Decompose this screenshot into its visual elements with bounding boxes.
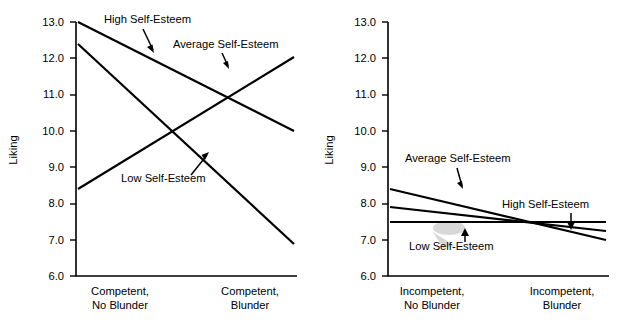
right-xcat2-line1: Incompetent,: [530, 285, 595, 297]
right-annotation-high-label: High Self-Esteem: [502, 198, 589, 210]
left-ytick-12: 12.0: [42, 52, 64, 64]
right-xcat2-line2: Blunder: [543, 299, 582, 311]
left-ytick-11: 11.0: [43, 88, 64, 100]
left-series-low-self-esteem: [78, 44, 294, 244]
right-ytick-11: 11.0: [355, 88, 376, 100]
right-ytick-9: 9.0: [360, 161, 376, 173]
left-ytick-9: 9.0: [48, 161, 64, 173]
left-axis-lines: [76, 22, 297, 276]
left-ytick-8: 8.0: [48, 197, 64, 209]
right-ytick-13: 13.0: [354, 16, 376, 28]
right-ytick-10: 10.0: [354, 125, 376, 137]
left-xcat2-line1: Competent,: [221, 285, 279, 297]
left-xcat1-line1: Competent,: [91, 285, 149, 297]
right-axis-lines: [388, 22, 609, 276]
right-xcat1-line1: Incompetent,: [400, 285, 465, 297]
right-xcat1-line2: No Blunder: [404, 299, 460, 311]
left-annotation-average-label: Average Self-Esteem: [173, 38, 279, 50]
chart-panel-competent: Liking 13.0 12.0 11.0 10.0 9.0 8.0 7.0 6…: [0, 0, 309, 326]
right-series-high-self-esteem: [390, 207, 606, 231]
chart-panel-incompetent: Liking 13.0 12.0 11.0 10.0 9.0 8.0 7.0 6…: [309, 0, 618, 326]
left-annotation-high-label: High Self-Esteem: [104, 13, 191, 25]
left-y-axis-title: Liking: [7, 135, 19, 164]
left-annotation-average-arrow: [222, 53, 229, 69]
right-annotation-average-arrow: [457, 168, 463, 189]
right-ytick-8: 8.0: [360, 197, 376, 209]
right-ytick-7: 7.0: [360, 234, 376, 246]
smudge-artifact: [433, 221, 465, 235]
right-chart-svg: Liking 13.0 12.0 11.0 10.0 9.0 8.0 7.0 6…: [309, 0, 618, 326]
left-ytick-10: 10.0: [42, 125, 64, 137]
right-annotation-low-label: Low Self-Esteem: [409, 240, 494, 252]
left-xcat1-line2: No Blunder: [92, 299, 148, 311]
left-xcat2-line2: Blunder: [231, 299, 270, 311]
two-panel-line-chart-figure: Liking 13.0 12.0 11.0 10.0 9.0 8.0 7.0 6…: [0, 0, 618, 326]
left-ytick-6: 6.0: [48, 270, 64, 282]
left-annotation-high-arrow: [143, 29, 154, 53]
right-ytick-6: 6.0: [360, 270, 376, 282]
right-annotation-average-label: Average Self-Esteem: [405, 152, 511, 164]
right-series-average-self-esteem: [390, 189, 606, 240]
left-ytick-7: 7.0: [48, 234, 64, 246]
left-ytick-13: 13.0: [42, 16, 64, 28]
left-chart-svg: Liking 13.0 12.0 11.0 10.0 9.0 8.0 7.0 6…: [0, 0, 309, 326]
right-y-axis-title: Liking: [323, 135, 335, 164]
left-y-tick-marks: [70, 22, 76, 276]
right-ytick-12: 12.0: [354, 52, 376, 64]
right-y-tick-marks: [382, 22, 388, 276]
